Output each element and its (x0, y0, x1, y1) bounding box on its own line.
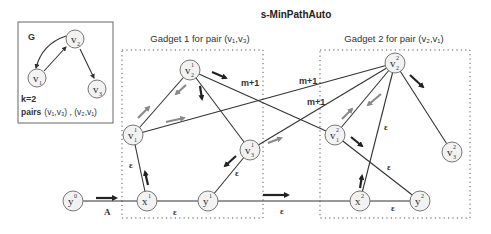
edge-label-m-plus-1: m+1 (299, 76, 317, 86)
svg-text:1: 1 (251, 142, 254, 148)
svg-text:2: 2 (421, 193, 424, 199)
arrow-icon (351, 137, 362, 146)
arrow-gray-icon (368, 94, 381, 105)
edge-label-eps: ε (384, 122, 388, 132)
svg-text:2: 2 (77, 41, 80, 47)
svg-text:2: 2 (361, 193, 364, 199)
svg-text:3: 3 (99, 91, 102, 97)
svg-text:1: 1 (39, 80, 42, 86)
svg-text:1: 1 (134, 137, 137, 143)
gadget-2-title: Gadget 2 for pair (v₂,v₁) (344, 33, 443, 44)
edge-label-eps: ε (280, 206, 284, 216)
graph-g-panel: G v 2 v 1 v 3 k=2 pairs(v₁,v₃) , (v₂,v₁) (18, 22, 113, 123)
g-node-v1: v 1 (28, 69, 46, 87)
arrow-icon (212, 72, 226, 78)
svg-text:2: 2 (396, 55, 399, 61)
node-y1: y 1 (198, 191, 218, 211)
arrow-icon (145, 172, 148, 185)
arrow-icon (360, 176, 362, 188)
svg-text:2: 2 (453, 144, 456, 150)
k-label: k=2 (21, 94, 36, 104)
edge-v2_1-v1_1 (133, 70, 190, 135)
node-v2-2: v 2 2 (385, 53, 405, 73)
svg-text:2: 2 (191, 72, 194, 78)
svg-text:2: 2 (396, 65, 399, 71)
svg-text:0: 0 (74, 193, 77, 199)
arrow-icon (410, 75, 423, 87)
svg-text:1: 1 (134, 127, 137, 133)
node-v1-2: v 2 1 (325, 125, 345, 145)
node-x1: x 1 (137, 191, 157, 211)
edge-label-eps: ε (387, 162, 391, 172)
node-v1-1: v 1 1 (123, 125, 143, 145)
reduction-diagram: s-MinPathAuto G v 2 v 1 v 3 k=2 pairs(v₁… (0, 0, 491, 234)
arrow-gray-icon (342, 109, 352, 119)
arrow-icon (200, 86, 202, 99)
svg-text:1: 1 (148, 193, 151, 199)
direction-arrows (96, 72, 423, 198)
svg-text:1: 1 (191, 62, 194, 68)
edge-v1_2-y2 (335, 135, 420, 201)
svg-text:3: 3 (453, 154, 456, 160)
edge-label-m-plus-1: m+1 (241, 78, 259, 88)
edge-label-eps: ε (129, 160, 133, 170)
edge-label-eps: ε (173, 207, 177, 217)
node-v2-1: v 1 2 (180, 60, 200, 80)
arrow-gray-icon (176, 85, 186, 94)
pairs-label: pairs(v₁,v₃) , (v₂,v₁) (21, 107, 97, 117)
graph-g-label: G (28, 32, 35, 42)
edge-v1_1-v2_2 (133, 63, 395, 135)
node-x2: x 2 (350, 191, 370, 211)
node-y2: y 2 (410, 191, 430, 211)
g-node-v2: v 2 (66, 30, 84, 48)
svg-text:1: 1 (336, 137, 339, 143)
node-v3-2: v 2 3 (442, 142, 462, 162)
g-node-v3: v 3 (88, 80, 106, 98)
edge-v2_2-v3_2 (395, 63, 452, 152)
node-y0: y 0 (63, 191, 83, 211)
edge-label-m-plus-1: m+1 (307, 97, 325, 107)
node-v3-1: v 1 3 (240, 140, 260, 160)
edge-label-a: A (104, 207, 111, 217)
arrow-gray-icon (268, 138, 281, 143)
diagram-title: s-MinPathAuto (261, 9, 332, 20)
edge-label-eps: ε (391, 203, 395, 213)
arrow-icon (225, 156, 236, 166)
svg-text:1: 1 (209, 193, 212, 199)
edge-label-eps: ε (235, 168, 239, 178)
svg-text:3: 3 (251, 152, 254, 158)
arrow-gray-icon (138, 107, 149, 118)
svg-text:2: 2 (336, 127, 339, 133)
gadget-1-title: Gadget 1 for pair (v₁,v₃) (150, 33, 249, 44)
